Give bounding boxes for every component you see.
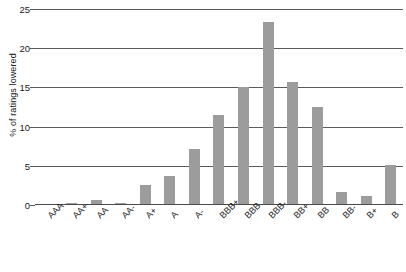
bar-slot [329, 9, 354, 205]
y-tick-label-0: 0 [25, 200, 30, 211]
x-label-slot: BBB [231, 206, 256, 266]
x-label-slot: BBB- [256, 206, 281, 266]
y-tick-label-5: 5 [25, 160, 30, 171]
bar-slot [305, 9, 330, 205]
y-tick-label-25: 25 [19, 4, 30, 15]
bar-slot [60, 9, 85, 205]
x-tick-label: A- [193, 207, 206, 220]
y-axis-title: % of ratings lowered [8, 20, 18, 170]
x-label-slot: AA+ [60, 206, 85, 266]
x-axis-labels: AAAAA+AAAA-A+AA-BBB+BBBBBB-BB+BBBB-B+B [35, 206, 403, 266]
x-label-slot: BB [305, 206, 330, 266]
bar-slot [35, 9, 60, 205]
bar[interactable] [385, 165, 396, 205]
bar-slot [231, 9, 256, 205]
bar[interactable] [312, 107, 323, 205]
bar-slot [280, 9, 305, 205]
x-label-slot: BBB+ [207, 206, 232, 266]
x-label-slot: AA [84, 206, 109, 266]
bar-slot [256, 9, 281, 205]
x-label-slot: A+ [133, 206, 158, 266]
bar-slot [84, 9, 109, 205]
bar-slot [158, 9, 183, 205]
bar[interactable] [213, 115, 224, 205]
bar[interactable] [263, 22, 274, 205]
x-label-slot: BB+ [280, 206, 305, 266]
bar[interactable] [238, 87, 249, 205]
x-label-slot: AA- [109, 206, 134, 266]
bar-slot [133, 9, 158, 205]
x-label-slot: AAA [35, 206, 60, 266]
bar[interactable] [140, 185, 151, 205]
y-tick-label-20: 20 [19, 43, 30, 54]
bar-chart: % of ratings lowered 25 20 15 10 5 0 AAA… [0, 0, 406, 272]
bar-series [35, 9, 403, 205]
x-label-slot: B+ [354, 206, 379, 266]
bar-slot [182, 9, 207, 205]
x-label-slot: A [158, 206, 183, 266]
x-label-slot: BB- [329, 206, 354, 266]
x-tick-label: B [389, 209, 400, 220]
x-label-slot: A- [182, 206, 207, 266]
y-tick-label-15: 15 [19, 82, 30, 93]
bar[interactable] [287, 82, 298, 205]
bar-slot [354, 9, 379, 205]
bar[interactable] [164, 176, 175, 205]
bar-slot [109, 9, 134, 205]
bar-slot [378, 9, 403, 205]
x-tick-label: A [169, 209, 180, 220]
bar[interactable] [189, 149, 200, 205]
plot-area: 25 20 15 10 5 0 [35, 9, 403, 205]
x-label-slot: B [378, 206, 403, 266]
bar-slot [207, 9, 232, 205]
y-tick-label-10: 10 [19, 121, 30, 132]
